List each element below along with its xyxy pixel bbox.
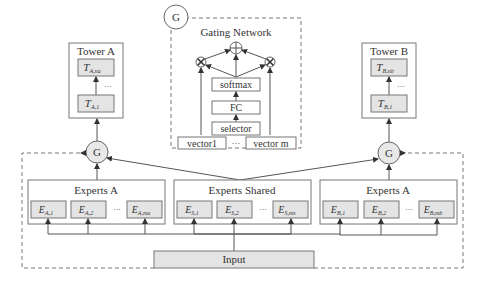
multiply-node-left-icon	[196, 57, 206, 67]
experts-shared-group: Experts Shared ES,1 ES,2 ··· ES,ms	[174, 180, 311, 224]
gating-network-title: Gating Network	[200, 26, 272, 38]
multiply-node-right-icon	[265, 57, 275, 67]
gate-node-right-label: G	[385, 147, 393, 159]
tower-a-title: Tower A	[77, 45, 115, 57]
gating-network-panel: G Gating Network softmax	[164, 5, 301, 149]
tower-b: Tower B TB,nb ··· TB,1	[362, 43, 416, 118]
tower-b-title: Tower B	[370, 45, 408, 57]
softmax-label: softmax	[220, 79, 252, 90]
experts-right-title: Experts A	[366, 184, 410, 196]
selector-label: selector	[220, 123, 252, 134]
ple-diagram: G Gating Network softmax	[0, 0, 482, 284]
input-label: Input	[222, 253, 245, 265]
fc-label: FC	[230, 102, 243, 113]
experts-shared-title: Experts Shared	[209, 184, 276, 196]
tower-a-ellipsis: ···	[104, 82, 112, 91]
tower-a: Tower A TA,na ··· TA,1	[69, 43, 123, 118]
tower-b-ellipsis: ···	[397, 82, 405, 91]
experts-left-ellipsis: ···	[113, 205, 121, 214]
experts-left-title: Experts A	[74, 184, 118, 196]
experts-right-ellipsis: ···	[405, 205, 413, 214]
vector-ellipsis: ···	[232, 138, 241, 148]
gating-badge-label: G	[172, 11, 180, 23]
gate-node-left-label: G	[93, 146, 101, 158]
experts-left-group: Experts A EA,1 EA,2 ··· EA,ma	[28, 180, 165, 224]
vector-1-label: vector1	[187, 138, 217, 149]
experts-right-group: Experts A EB,1 EB,2 ··· EB,mb	[320, 180, 457, 224]
experts-shared-ellipsis: ···	[259, 205, 267, 214]
vector-m-label: vector m	[253, 138, 288, 149]
